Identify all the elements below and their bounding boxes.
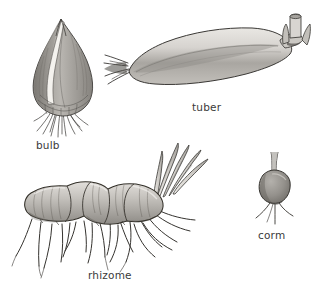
stem-stub-center-cut <box>290 14 301 18</box>
tuber-illustration <box>104 14 310 85</box>
label-corm: corm <box>258 230 285 241</box>
bulb-illustration <box>33 19 93 137</box>
corm-illustration <box>256 152 293 224</box>
stem-stub-right <box>302 24 310 45</box>
label-rhizome: rhizome <box>88 270 132 281</box>
plant-storage-organs-figure: bulb tuber rhizome corm <box>0 0 313 290</box>
corm-roots <box>256 203 293 224</box>
label-tuber: tuber <box>192 102 221 113</box>
label-bulb: bulb <box>36 140 60 151</box>
rhizome-illustration <box>12 143 208 278</box>
stem-stub-left <box>283 24 289 44</box>
rhizome-shoots <box>153 143 208 198</box>
